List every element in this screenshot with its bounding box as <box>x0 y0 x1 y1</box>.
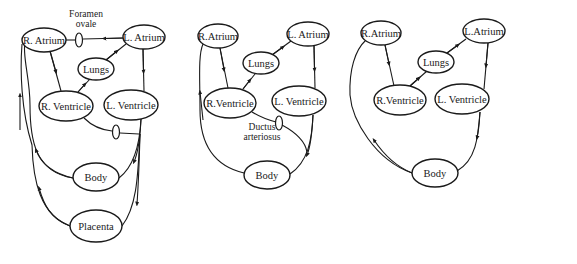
foramen-ovale-label: Foramen <box>69 9 103 19</box>
svg-text:Body: Body <box>256 170 280 181</box>
svg-text:L. Ventricle: L. Ventricle <box>106 100 156 111</box>
svg-text:Lungs: Lungs <box>423 57 449 68</box>
node-body: Body <box>412 159 458 187</box>
svg-text:R. Ventricle: R. Ventricle <box>41 101 91 112</box>
node-r-ventricle: R.Ventricle <box>374 85 426 115</box>
node-r-atrium: R.Atrium <box>361 21 401 45</box>
node-l-ventricle: L. Ventricle <box>435 84 489 114</box>
node-placenta: Placenta <box>70 210 122 242</box>
diagram-transitional: R.Atrium L. Atrium Lungs R.Ventricle L. … <box>198 22 329 189</box>
foramen-ovale-ring-icon <box>76 33 83 47</box>
foramen-ovale-label-line2: ovale <box>76 19 97 29</box>
svg-text:R.Atrium: R.Atrium <box>361 28 401 39</box>
node-body: Body <box>244 161 290 189</box>
diagram-adult: R.Atrium L.Atrium Lungs R.Ventricle L. V… <box>350 19 505 187</box>
svg-text:Body: Body <box>424 168 448 179</box>
node-body: Body <box>73 163 119 191</box>
node-l-ventricle: L. Ventricle <box>272 86 326 116</box>
edge-rventricle-ductus <box>84 118 112 131</box>
svg-text:L. Atrium: L. Atrium <box>287 29 328 40</box>
circulation-figure: R. Atrium L. Atrium Lungs R. Ventricle L… <box>0 0 577 264</box>
diagram-fetal: R. Atrium L. Atrium Lungs R. Ventricle L… <box>20 9 165 242</box>
edge-placenta-ratrium <box>21 44 70 226</box>
ductus-arteriosus-ring-icon <box>276 116 283 130</box>
node-lungs: Lungs <box>78 58 114 80</box>
svg-text:L. Ventricle: L. Ventricle <box>274 96 324 107</box>
svg-text:L. Atrium: L. Atrium <box>123 32 164 43</box>
node-r-atrium: R.Atrium <box>198 24 238 48</box>
svg-text:Lungs: Lungs <box>248 58 274 69</box>
svg-text:R.Ventricle: R.Ventricle <box>376 95 424 106</box>
node-lungs: Lungs <box>243 52 279 74</box>
edge-rventricle-ductus <box>252 112 276 122</box>
node-r-ventricle: R.Ventricle <box>204 88 256 118</box>
ductus-arteriosus-label: Ductus <box>249 122 276 132</box>
svg-text:L.Atrium: L.Atrium <box>464 26 503 37</box>
node-l-atrium: L. Atrium <box>287 22 329 46</box>
svg-text:Body: Body <box>85 172 109 183</box>
svg-text:Lungs: Lungs <box>83 64 109 75</box>
node-l-ventricle: L. Ventricle <box>104 90 158 120</box>
ductus-arteriosus-label-line2: arteriosus <box>244 132 281 142</box>
node-l-atrium: L.Atrium <box>463 19 505 43</box>
node-r-ventricle: R. Ventricle <box>39 91 93 121</box>
svg-text:R. Atrium: R. Atrium <box>23 35 65 46</box>
svg-text:L. Ventricle: L. Ventricle <box>437 94 487 105</box>
ductus-ring-icon <box>113 125 120 139</box>
node-r-atrium: R. Atrium <box>22 28 66 52</box>
node-l-atrium: L. Atrium <box>123 25 165 49</box>
edge-lventricle-body <box>457 112 480 171</box>
node-lungs: Lungs <box>418 51 454 73</box>
svg-text:R.Atrium: R.Atrium <box>198 31 238 42</box>
svg-text:Placenta: Placenta <box>78 221 114 232</box>
svg-text:R.Ventricle: R.Ventricle <box>206 98 254 109</box>
